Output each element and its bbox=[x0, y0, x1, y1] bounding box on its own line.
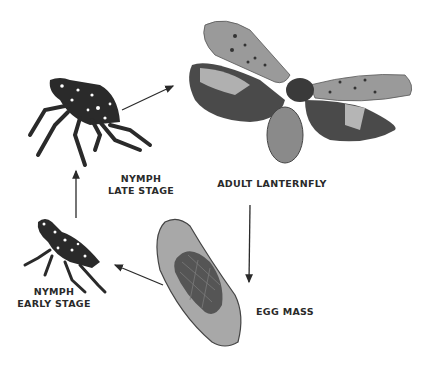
label-egg-mass: EGG MASS bbox=[254, 306, 316, 318]
label-line: NYMPH bbox=[105, 173, 177, 185]
label-nymph-early-stage: NYMPH EARLY STAGE bbox=[14, 286, 94, 310]
label-line: EARLY STAGE bbox=[14, 298, 94, 310]
label-nymph-late-stage: NYMPH LATE STAGE bbox=[105, 173, 177, 197]
nymph-early-illustration bbox=[25, 219, 105, 292]
diagram-graphics bbox=[0, 0, 424, 369]
arrow-adult-to-egg bbox=[249, 205, 250, 282]
adult-lanternfly-illustration bbox=[189, 21, 412, 163]
nymph-late-illustration bbox=[30, 78, 150, 165]
label-line: LATE STAGE bbox=[105, 185, 177, 197]
egg-mass-illustration bbox=[157, 219, 241, 346]
arrow-late-to-adult bbox=[122, 86, 173, 110]
lifecycle-diagram: NYMPH LATE STAGE ADULT LANTERNFLY EGG MA… bbox=[0, 0, 424, 369]
label-line: ADULT LANTERNFLY bbox=[216, 178, 328, 190]
label-adult-lanternfly: ADULT LANTERNFLY bbox=[216, 178, 328, 190]
label-line: EGG MASS bbox=[254, 306, 316, 318]
arrow-egg-to-early bbox=[115, 265, 163, 285]
label-line: NYMPH bbox=[14, 286, 94, 298]
